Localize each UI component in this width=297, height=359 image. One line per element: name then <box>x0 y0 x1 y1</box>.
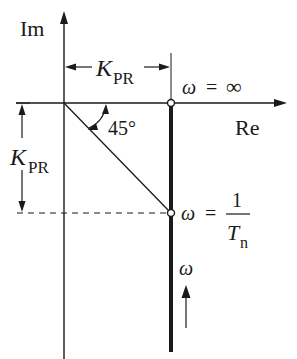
real-axis-label: Re <box>235 115 259 140</box>
direction-indicator: ω <box>179 257 193 328</box>
omega-corner-eq: = <box>205 202 216 224</box>
omega-corner-var: ω <box>181 202 195 224</box>
omega-corner-denominator-subscript: n <box>240 234 248 251</box>
angle-arrow-up-icon <box>102 104 109 114</box>
imaginary-axis-arrow-icon <box>60 11 68 24</box>
vertical-kpr-dimension: K PR <box>9 103 49 212</box>
imaginary-axis <box>60 11 68 359</box>
real-axis-arrow-icon <box>274 99 287 107</box>
angle-arc <box>88 104 109 130</box>
omega-corner-denominator-symbol: T <box>227 220 241 245</box>
nyquist-diagram: Im Re K PR K PR 45° ω = ∞ <box>0 0 297 359</box>
omega-infinity-var: ω <box>182 76 196 98</box>
real-axis <box>16 99 287 107</box>
omega-corner-numerator: 1 <box>232 189 242 211</box>
horizontal-kpr-symbol: K <box>95 55 114 81</box>
point-omega-corner-marker <box>168 210 175 217</box>
omega-infinity-eq: = <box>206 76 217 98</box>
horizontal-kpr-subscript: PR <box>113 69 134 88</box>
angle-label: 45° <box>108 117 136 139</box>
omega-infinity-label: ω = ∞ <box>182 74 242 99</box>
vertical-kpr-subscript: PR <box>28 158 49 177</box>
point-omega-infinity-marker <box>168 100 175 107</box>
direction-label: ω <box>179 257 193 279</box>
imaginary-axis-label: Im <box>20 16 44 41</box>
vertical-kpr-symbol: K <box>9 144 28 170</box>
horizontal-kpr-dimension: K PR <box>65 53 171 103</box>
dimension-arrow-left-icon <box>65 64 76 71</box>
omega-infinity-value: ∞ <box>226 74 242 99</box>
dimension-arrow-right-icon <box>159 64 170 71</box>
dimension-arrow-down-icon <box>19 201 26 212</box>
direction-arrow-up-icon <box>182 285 191 298</box>
omega-corner-label: ω = 1 T n <box>181 189 250 251</box>
dimension-arrow-up-icon <box>19 104 26 115</box>
